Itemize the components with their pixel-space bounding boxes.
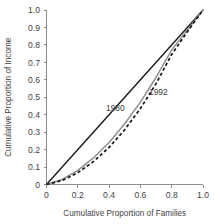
series-label-1992: 1992	[149, 87, 168, 97]
y-axis-title: Cumulative Proportion of Income	[4, 37, 13, 157]
y-tick-label: 0.5	[28, 92, 40, 102]
y-tick-label: 0	[35, 180, 40, 190]
x-tick-label: 0.6	[134, 190, 146, 200]
y-tick-label: 0.7	[28, 58, 40, 68]
y-tick-label: 0.3	[28, 127, 40, 137]
x-tick-label: 0.4	[103, 190, 115, 200]
series-label-1980: 1980	[106, 103, 125, 113]
y-tick-label: 0.4	[28, 110, 40, 120]
lorenz-curve-chart: 1.0 0.9 0.8 0.7 0.6 0.5 0.4 0.3 0.2 0.1 …	[0, 0, 215, 224]
y-tick-label: 0.6	[28, 75, 40, 85]
y-tick-label: 0.2	[28, 145, 40, 155]
x-tick-label: 0.8	[166, 190, 178, 200]
y-tick-label: 0.8	[28, 40, 40, 50]
x-tick-label: 1.0	[197, 190, 209, 200]
y-tick-label: 0.1	[28, 162, 40, 172]
x-tick-label: 0.2	[72, 190, 84, 200]
x-tick-label: 0	[44, 190, 49, 200]
chart-canvas: 1.0 0.9 0.8 0.7 0.6 0.5 0.4 0.3 0.2 0.1 …	[0, 0, 215, 224]
y-tick-label: 1.0	[28, 5, 40, 15]
y-tick-label: 0.9	[28, 23, 40, 33]
x-axis-title: Cumulative Proportion of Families	[63, 209, 186, 218]
